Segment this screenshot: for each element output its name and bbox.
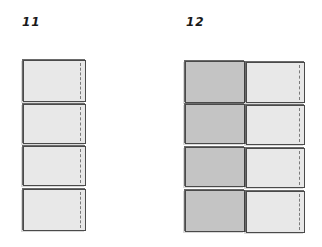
step-number-label: 11 (22, 15, 41, 29)
light-fabric-tile (246, 148, 305, 188)
dark-fabric-tile (185, 190, 245, 232)
dashed-seam-line (299, 108, 300, 142)
dashed-seam-line (80, 107, 81, 141)
dashed-seam-line (80, 149, 81, 183)
light-fabric-tile (23, 104, 86, 144)
step-number-label: 12 (186, 15, 205, 29)
dark-fabric-tile (185, 61, 245, 103)
dashed-seam-line (80, 63, 81, 99)
dashed-seam-line (299, 194, 300, 230)
dark-fabric-tile (185, 147, 245, 187)
dark-fabric-tile (185, 104, 245, 144)
light-fabric-tile (246, 191, 305, 233)
dashed-seam-line (80, 192, 81, 228)
light-fabric-tile (246, 62, 305, 103)
dashed-seam-line (299, 65, 300, 100)
light-fabric-tile (23, 146, 86, 186)
light-fabric-tile (23, 60, 86, 102)
dashed-seam-line (299, 151, 300, 185)
light-fabric-tile (246, 105, 305, 145)
light-fabric-tile (23, 189, 86, 231)
